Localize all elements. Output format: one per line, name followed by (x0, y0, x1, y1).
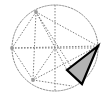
chord-top-to-bottomleft (33, 12, 36, 80)
shaded-triangle (67, 46, 98, 84)
chord-bottomleft-to-bottom (33, 80, 72, 86)
vertex-bottom-left-marker (31, 78, 35, 82)
vertex-top-marker (34, 10, 38, 14)
figure-svg (0, 0, 108, 98)
geometric-figure-canvas (0, 0, 108, 98)
chord-top-to-triangle-left (36, 12, 67, 70)
chord-bottomleft-to-center (33, 48, 55, 80)
vertex-left-marker (10, 46, 14, 50)
